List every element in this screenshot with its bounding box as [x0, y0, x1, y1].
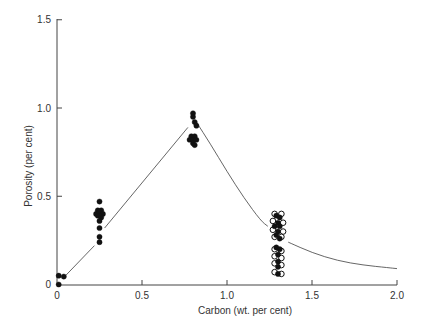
filled-data-point [56, 282, 61, 287]
y-axis-label: Porosity (per cent) [23, 125, 34, 207]
filled-data-point [275, 259, 280, 264]
y-ticks: 00.51.01.5 [37, 14, 62, 290]
fit-curves [66, 122, 398, 276]
chart: 00.51.01.5 00.51.01.52.0 Carbon (wt. per… [0, 0, 422, 334]
x-axis-label: Carbon (wt. per cent) [198, 305, 292, 316]
filled-data-point [277, 247, 282, 252]
x-tick-label: 2.0 [390, 290, 404, 301]
rising-segment-1 [66, 246, 95, 276]
data-markers [56, 111, 286, 287]
filled-data-point [97, 234, 102, 239]
y-tick-label: 1.0 [37, 103, 51, 114]
filled-data-point [275, 252, 280, 257]
filled-data-point [275, 271, 280, 276]
x-ticks: 00.51.01.52.0 [54, 280, 404, 301]
filled-data-point [275, 264, 280, 269]
filled-data-point [97, 225, 102, 230]
filled-data-point [277, 236, 282, 241]
open-data-point [280, 229, 286, 235]
filled-data-point [97, 218, 102, 223]
y-tick-label: 0 [45, 279, 51, 290]
falling-curve-1 [196, 122, 267, 226]
y-tick-label: 0.5 [37, 191, 51, 202]
filled-data-point [97, 199, 102, 204]
rising-segment-2 [105, 127, 188, 228]
filled-data-point [272, 224, 277, 229]
x-tick-label: 1.0 [220, 290, 234, 301]
filled-data-point [56, 273, 61, 278]
filled-data-point [61, 274, 66, 279]
filled-data-point [277, 215, 282, 220]
plot-area: 00.51.01.5 00.51.01.52.0 [37, 14, 404, 301]
falling-curve-2 [288, 242, 397, 268]
x-tick-label: 0.5 [135, 290, 149, 301]
open-data-point [270, 218, 276, 224]
y-tick-label: 1.5 [37, 14, 51, 25]
filled-data-point [194, 123, 199, 128]
filled-data-point [192, 142, 197, 147]
filled-data-point [97, 240, 102, 245]
x-tick-label: 1.5 [305, 290, 319, 301]
x-tick-label: 0 [54, 290, 60, 301]
filled-data-point [190, 114, 195, 119]
filled-data-point [277, 224, 282, 229]
